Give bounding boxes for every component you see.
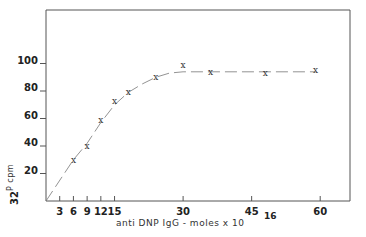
fit-curve [46, 72, 316, 201]
x-tick-label: 45 [245, 206, 259, 217]
y-axis-label-base: P cpm [6, 164, 15, 191]
x-tick-label: 30 [176, 206, 190, 217]
x-axis-label: anti DNP IgG - moles x 10 [116, 218, 244, 228]
data-point-marker: x [181, 60, 186, 70]
y-axis-label: 32 P cpm [6, 164, 20, 205]
data-point-marker: x [85, 141, 90, 151]
x-tick-label: 60 [313, 206, 327, 217]
y-axis-ticks: 20406080100 [17, 55, 46, 176]
x-tick-label: 9 [84, 206, 91, 217]
y-tick-label: 20 [24, 165, 38, 176]
data-point-marker: x [112, 96, 117, 106]
data-point-marker: x [313, 65, 318, 75]
y-tick-label: 60 [24, 110, 38, 121]
x-tick-label: 12 [94, 206, 108, 217]
data-point-marker: x [98, 115, 103, 125]
y-tick-label: 80 [24, 82, 38, 93]
y-tick-label: 100 [17, 55, 38, 66]
axis-labels: anti DNP IgG - moles x 10 16 32 P cpm [6, 164, 277, 228]
x-tick-label: 6 [70, 206, 77, 217]
data-point-marker: x [263, 68, 268, 78]
data-point-marker: x [208, 67, 213, 77]
y-axis-label-superscript: 32 [9, 191, 20, 205]
x-tick-label: 3 [56, 206, 63, 217]
x-axis-ticks: 3691215304560 [56, 196, 327, 217]
y-tick-label: 40 [24, 137, 38, 148]
x-tick-label: 15 [108, 206, 122, 217]
chart: 20406080100 3691215304560 xxxxxxxxxx ant… [0, 0, 366, 237]
data-point-marker: x [126, 87, 131, 97]
plot-frame [46, 10, 350, 201]
data-point-marker: x [153, 72, 158, 82]
data-points: xxxxxxxxxx [71, 60, 318, 165]
x-axis-label-exponent: 16 [264, 211, 277, 221]
data-point-marker: x [71, 155, 76, 165]
